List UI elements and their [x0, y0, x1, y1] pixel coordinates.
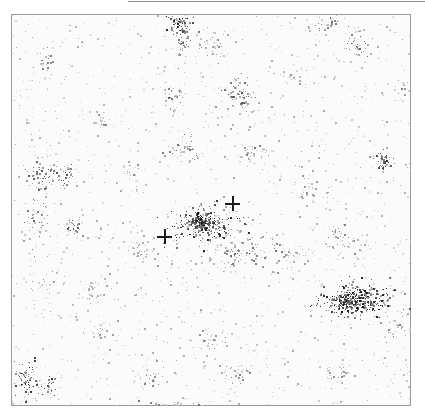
- crosshair-left-icon: [157, 229, 172, 244]
- crosshair-right-icon: [225, 196, 240, 211]
- speckle-density-map: [0, 0, 425, 417]
